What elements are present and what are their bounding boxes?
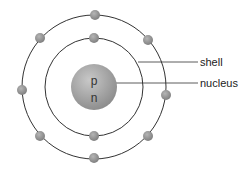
electron xyxy=(143,131,153,141)
neutron-label: n xyxy=(91,91,98,105)
proton-label: p xyxy=(91,74,98,88)
shell-label: shell xyxy=(200,56,223,68)
electron xyxy=(89,153,99,163)
electron xyxy=(35,33,45,43)
electron xyxy=(90,10,100,20)
electron xyxy=(89,131,99,141)
electron xyxy=(35,131,45,141)
electron xyxy=(17,85,27,95)
electron xyxy=(143,35,153,45)
nucleus-label: nucleus xyxy=(200,77,238,89)
electron xyxy=(89,33,99,43)
electron xyxy=(161,90,171,100)
atom-diagram: p n shell nucleus xyxy=(0,0,246,174)
